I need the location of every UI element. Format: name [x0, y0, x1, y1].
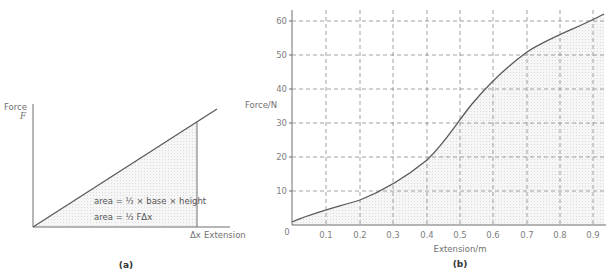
origin-label: 0 [284, 227, 289, 237]
caption-a: (a) [119, 260, 133, 270]
x-tick-0.3: 0.3 [386, 230, 400, 240]
x-tick-0.4: 0.4 [420, 230, 434, 240]
x-tick-0.8: 0.8 [553, 230, 567, 240]
caption-b: (b) [453, 259, 468, 269]
x-axis-symbol: Δx [190, 230, 201, 240]
y-tick-40: 40 [276, 84, 287, 94]
x-axis-label: Extension [204, 230, 246, 240]
panel-b: 10 20 30 40 50 60 0 0.1 0.2 0.3 0.4 0.5 … [245, 10, 606, 269]
x-tick-0.1: 0.1 [319, 230, 333, 240]
y-tick-20: 20 [276, 152, 287, 162]
y-axis-label: Force/N [245, 100, 277, 110]
x-tick-0.5: 0.5 [453, 230, 467, 240]
x-tick-0.6: 0.6 [486, 230, 500, 240]
y-tick-10: 10 [276, 186, 287, 196]
figure: Force F area = ½ × base × height area = … [0, 0, 613, 278]
panel-a: Force F area = ½ × base × height area = … [4, 102, 246, 270]
x-tick-0.9: 0.9 [586, 230, 600, 240]
y-axis-symbol: F [19, 111, 27, 121]
x-tick-0.7: 0.7 [520, 230, 534, 240]
y-tick-60: 60 [276, 16, 287, 26]
x-axis-label: Extension/m [434, 244, 487, 254]
y-tick-50: 50 [276, 50, 287, 60]
y-tick-30: 30 [276, 118, 287, 128]
area-under-curve [292, 14, 604, 225]
annotation-area-formula-1: area = ½ × base × height [94, 196, 207, 206]
annotation-area-formula-2: area = ½ FΔx [94, 212, 152, 222]
x-tick-0.2: 0.2 [353, 230, 367, 240]
